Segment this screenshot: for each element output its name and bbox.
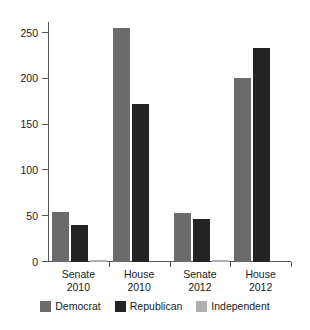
x-axis-label: House2012	[230, 268, 291, 293]
bar-group	[230, 22, 291, 262]
x-axis-label-line: 2010	[109, 281, 170, 294]
x-axis-label-line: Senate	[170, 268, 231, 281]
x-axis-labels: Senate2010House2010Senate2012House2012	[48, 268, 291, 298]
bar-democrat	[113, 28, 130, 262]
y-axis-tick-label: 200	[20, 73, 38, 84]
x-axis-label-line: 2010	[48, 281, 109, 294]
legend-item-independent[interactable]: Independent	[196, 301, 269, 312]
x-axis-label-line: House	[109, 268, 170, 281]
legend-label: Republican	[130, 301, 183, 312]
bar-chart-figure: 050100150200250 Senate2010House2010Senat…	[0, 0, 310, 330]
x-axis-label-line: House	[230, 268, 291, 281]
bar-democrat	[174, 213, 191, 262]
y-axis-tick-label: 100	[20, 165, 38, 176]
x-axis-label-line: 2012	[170, 281, 231, 294]
x-axis-tick	[291, 262, 292, 267]
bars-layer	[48, 22, 291, 262]
bar-republican	[253, 48, 270, 262]
x-axis-label-line: 2012	[230, 281, 291, 294]
legend-label: Independent	[211, 301, 269, 312]
bar-group	[48, 22, 109, 262]
y-axis-tick-label: 0	[32, 256, 38, 267]
bar-group	[170, 22, 231, 262]
y-axis-tick-label: 150	[20, 119, 38, 130]
legend-label: Democrat	[55, 301, 101, 312]
bar-republican	[132, 104, 149, 262]
plot-area: 050100150200250	[48, 22, 291, 262]
bar-independent	[212, 260, 229, 262]
x-axis-tick	[230, 262, 231, 267]
bar-democrat	[234, 78, 251, 262]
x-axis-label: House2010	[109, 268, 170, 293]
legend-item-republican[interactable]: Republican	[115, 301, 183, 312]
y-axis-tick-label: 250	[20, 27, 38, 38]
bar-group	[109, 22, 170, 262]
x-axis-tick	[170, 262, 171, 267]
legend-swatch-icon	[40, 301, 51, 312]
bar-republican	[71, 225, 88, 262]
x-axis-tick	[109, 262, 110, 267]
x-axis-label: Senate2010	[48, 268, 109, 293]
x-axis-label-line: Senate	[48, 268, 109, 281]
bar-democrat	[52, 212, 69, 262]
chart-legend: DemocratRepublicanIndependent	[0, 301, 310, 312]
legend-item-democrat[interactable]: Democrat	[40, 301, 101, 312]
legend-swatch-icon	[196, 301, 207, 312]
bar-republican	[193, 219, 210, 262]
bar-independent	[90, 260, 107, 262]
x-axis-label: Senate2012	[170, 268, 231, 293]
legend-swatch-icon	[115, 301, 126, 312]
y-axis-tick-label: 50	[26, 210, 38, 221]
